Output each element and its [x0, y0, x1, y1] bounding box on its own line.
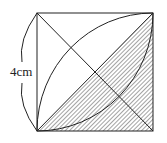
side-length-label: 4cm — [10, 64, 32, 79]
